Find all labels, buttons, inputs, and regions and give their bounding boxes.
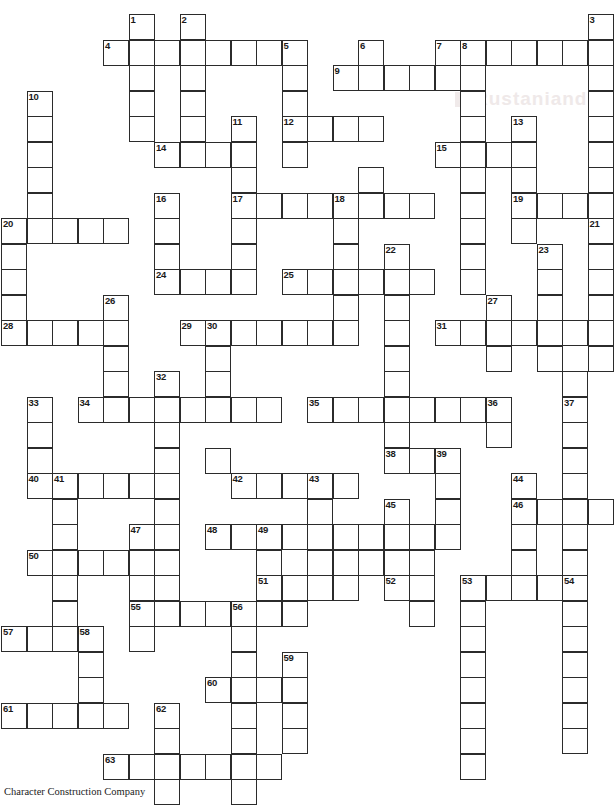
crossword-cell[interactable]	[27, 448, 53, 474]
crossword-cell[interactable]	[460, 116, 486, 142]
crossword-cell[interactable]	[129, 550, 155, 576]
crossword-cell[interactable]	[333, 269, 359, 295]
crossword-cell-numbered-42[interactable]: 42	[231, 473, 257, 499]
crossword-cell[interactable]	[384, 269, 410, 295]
crossword-cell[interactable]	[307, 575, 333, 601]
crossword-cell-numbered-24[interactable]: 24	[154, 269, 180, 295]
crossword-cell[interactable]	[588, 65, 614, 91]
crossword-cell[interactable]	[486, 320, 512, 346]
crossword-cell-numbered-59[interactable]: 59	[282, 652, 308, 678]
crossword-cell[interactable]	[282, 473, 308, 499]
crossword-cell[interactable]	[52, 575, 78, 601]
crossword-cell[interactable]	[358, 167, 384, 193]
crossword-cell[interactable]	[231, 269, 257, 295]
crossword-cell-numbered-1[interactable]: 1	[129, 14, 155, 40]
crossword-cell[interactable]	[205, 601, 231, 627]
crossword-cell[interactable]	[537, 193, 563, 219]
crossword-cell[interactable]	[358, 65, 384, 91]
crossword-cell[interactable]	[154, 524, 180, 550]
crossword-cell[interactable]	[588, 91, 614, 117]
crossword-cell-numbered-47[interactable]: 47	[129, 524, 155, 550]
crossword-cell[interactable]	[537, 346, 563, 372]
crossword-cell[interactable]	[205, 40, 231, 66]
crossword-cell[interactable]	[460, 754, 486, 780]
crossword-cell[interactable]	[27, 320, 53, 346]
crossword-cell[interactable]	[562, 371, 588, 397]
crossword-cell[interactable]	[588, 499, 614, 525]
crossword-cell[interactable]	[27, 116, 53, 142]
crossword-cell[interactable]	[1, 244, 27, 270]
crossword-cell[interactable]	[154, 601, 180, 627]
crossword-cell[interactable]	[103, 473, 129, 499]
crossword-cell-numbered-51[interactable]: 51	[256, 575, 282, 601]
crossword-cell-numbered-32[interactable]: 32	[154, 371, 180, 397]
crossword-cell[interactable]	[333, 295, 359, 321]
crossword-cell[interactable]	[205, 371, 231, 397]
crossword-cell[interactable]	[511, 550, 537, 576]
crossword-cell[interactable]	[435, 524, 461, 550]
crossword-cell[interactable]	[78, 320, 104, 346]
crossword-cell[interactable]	[27, 142, 53, 168]
crossword-cell[interactable]	[588, 269, 614, 295]
crossword-cell[interactable]	[205, 346, 231, 372]
crossword-cell[interactable]	[511, 524, 537, 550]
crossword-cell[interactable]	[562, 448, 588, 474]
crossword-cell[interactable]	[154, 779, 180, 805]
crossword-cell-numbered-35[interactable]: 35	[307, 397, 333, 423]
crossword-cell-numbered-12[interactable]: 12	[282, 116, 308, 142]
crossword-cell[interactable]	[409, 65, 435, 91]
crossword-cell[interactable]	[282, 677, 308, 703]
crossword-cell[interactable]	[307, 116, 333, 142]
crossword-cell[interactable]	[78, 652, 104, 678]
crossword-cell[interactable]	[460, 626, 486, 652]
crossword-grid[interactable]: 1234567891011121314151617181920212223242…	[0, 0, 613, 790]
crossword-cell[interactable]	[180, 142, 206, 168]
crossword-cell[interactable]	[282, 703, 308, 729]
crossword-cell[interactable]	[588, 116, 614, 142]
crossword-cell[interactable]	[333, 218, 359, 244]
crossword-cell[interactable]	[129, 91, 155, 117]
crossword-cell[interactable]	[154, 550, 180, 576]
crossword-cell[interactable]	[562, 677, 588, 703]
crossword-cell[interactable]	[384, 65, 410, 91]
crossword-cell[interactable]	[460, 601, 486, 627]
crossword-cell[interactable]	[358, 524, 384, 550]
crossword-cell[interactable]	[562, 601, 588, 627]
crossword-cell[interactable]	[588, 167, 614, 193]
crossword-cell[interactable]	[282, 193, 308, 219]
crossword-cell[interactable]	[154, 448, 180, 474]
crossword-cell[interactable]	[231, 677, 257, 703]
crossword-cell[interactable]	[205, 754, 231, 780]
crossword-cell[interactable]	[409, 550, 435, 576]
crossword-cell[interactable]	[1, 295, 27, 321]
crossword-cell[interactable]	[154, 728, 180, 754]
crossword-cell[interactable]	[205, 269, 231, 295]
crossword-cell[interactable]	[588, 244, 614, 270]
crossword-cell[interactable]	[129, 473, 155, 499]
crossword-cell-numbered-37[interactable]: 37	[562, 397, 588, 423]
crossword-cell[interactable]	[231, 754, 257, 780]
crossword-cell-numbered-33[interactable]: 33	[27, 397, 53, 423]
crossword-cell[interactable]	[27, 703, 53, 729]
crossword-cell[interactable]	[27, 167, 53, 193]
crossword-cell[interactable]	[333, 550, 359, 576]
crossword-cell[interactable]	[460, 65, 486, 91]
crossword-cell[interactable]	[537, 269, 563, 295]
crossword-cell-numbered-28[interactable]: 28	[1, 320, 27, 346]
crossword-cell[interactable]	[486, 575, 512, 601]
crossword-cell[interactable]	[384, 397, 410, 423]
crossword-cell-numbered-34[interactable]: 34	[78, 397, 104, 423]
crossword-cell[interactable]	[333, 575, 359, 601]
crossword-cell[interactable]	[537, 40, 563, 66]
crossword-cell[interactable]	[231, 703, 257, 729]
crossword-cell[interactable]	[180, 91, 206, 117]
crossword-cell[interactable]	[231, 652, 257, 678]
crossword-cell[interactable]	[154, 422, 180, 448]
crossword-cell[interactable]	[588, 142, 614, 168]
crossword-cell[interactable]	[537, 320, 563, 346]
crossword-cell[interactable]	[256, 397, 282, 423]
crossword-cell-numbered-16[interactable]: 16	[154, 193, 180, 219]
crossword-cell[interactable]	[205, 448, 231, 474]
crossword-cell[interactable]	[588, 295, 614, 321]
crossword-cell[interactable]	[486, 40, 512, 66]
